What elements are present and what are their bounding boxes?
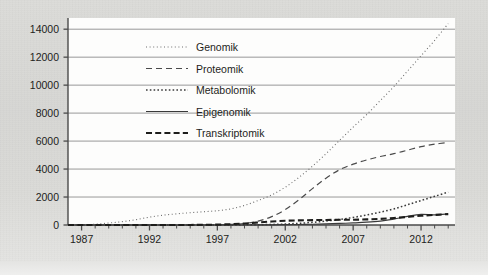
y-axis-tick-labels: 02000400060008000100001200014000 [30,23,59,231]
x-tick-label: 1997 [206,233,230,245]
legend-label-proteomik: Proteomik [196,63,244,75]
chart-legend: GenomikProteomikMetabolomikEpigenomikTra… [146,41,265,139]
y-tick-label: 14000 [30,23,59,35]
y-tick-label: 0 [53,219,59,231]
chart-svg: 02000400060008000100001200014000 1987199… [0,0,488,275]
legend-label-genomik: Genomik [196,41,239,53]
y-tick-label: 10000 [30,79,59,91]
x-tick-label: 2007 [341,233,365,245]
data-series [68,24,448,225]
y-tick-label: 6000 [36,135,60,147]
legend-label-metabolomik: Metabolomik [196,84,256,96]
y-tick-label: 2000 [36,191,60,203]
legend-label-transkriptomik: Transkriptomik [196,127,265,139]
y-tick-label: 8000 [36,107,60,119]
legend-label-epigenomik: Epigenomik [196,106,252,118]
series-line-epigenomik [68,214,448,225]
x-tick-label: 2002 [274,233,298,245]
series-line-genomik [68,24,448,225]
figure-line-chart: 02000400060008000100001200014000 1987199… [0,0,488,275]
x-axis-tick-labels: 198719921997200220072012 [70,233,433,245]
x-tick-label: 2012 [409,233,433,245]
series-line-proteomik [68,142,448,225]
gridlines [68,29,455,197]
x-tick-label: 1987 [70,233,94,245]
x-tick-label: 1992 [138,233,162,245]
y-tick-label: 12000 [30,51,59,63]
y-tick-label: 4000 [36,163,60,175]
